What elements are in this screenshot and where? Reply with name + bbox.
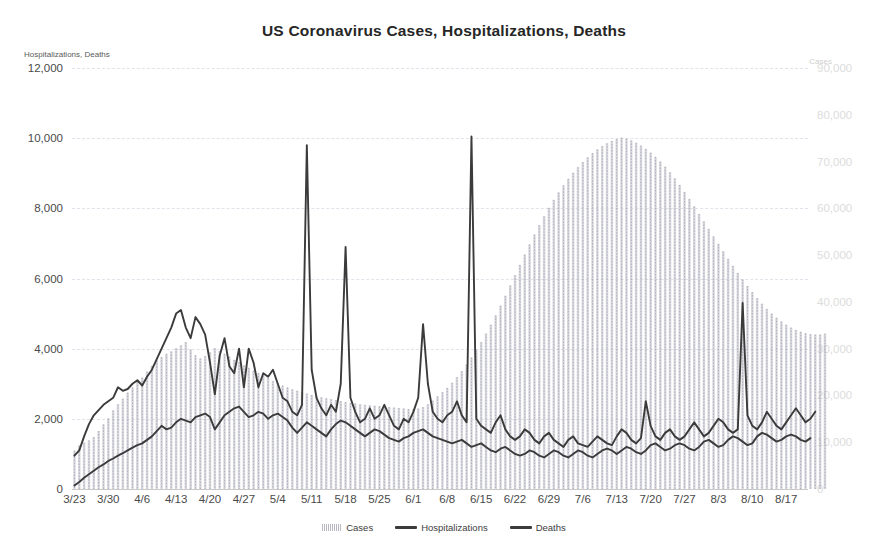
x-axis-tick-label: 4/20 (199, 493, 221, 505)
x-axis-tick-label: 8/10 (741, 493, 763, 505)
right-axis-tick-label: 30,000 (817, 343, 852, 355)
left-axis-tick-label: 0 (57, 483, 63, 495)
x-axis-tick-label: 5/25 (368, 493, 390, 505)
x-axis-tick-label: 5/4 (270, 493, 286, 505)
chart-page: US Coronavirus Cases, Hospitalizations, … (0, 0, 888, 560)
x-axis-tick-label: 6/15 (470, 493, 492, 505)
right-axis-tick-label: 90,000 (817, 62, 852, 74)
x-axis-tick-label: 3/30 (97, 493, 119, 505)
left-axis-title: Hospitalizations, Deaths (24, 50, 110, 59)
bar (819, 335, 822, 489)
right-axis-tick-label: 50,000 (817, 249, 852, 261)
legend-item[interactable]: Deaths (510, 523, 566, 533)
x-axis-tick-label: 5/18 (334, 493, 356, 505)
line-hospitalizations (74, 136, 815, 455)
x-axis-tick-label: 6/29 (538, 493, 560, 505)
bar (824, 334, 827, 489)
x-axis-tick-label: 8/17 (775, 493, 797, 505)
legend-swatch-line-icon (395, 526, 417, 529)
x-axis-tick-label: 4/6 (134, 493, 150, 505)
bar (809, 334, 812, 489)
right-axis-tick-label: 80,000 (817, 109, 852, 121)
legend-label: Cases (346, 523, 373, 533)
x-axis-tick-label: 4/13 (165, 493, 187, 505)
plot-area: 02,0004,0006,0008,00010,00012,000 010,00… (72, 68, 808, 489)
x-axis-tick-label: 6/22 (504, 493, 526, 505)
x-axis-tick-label: 7/27 (673, 493, 695, 505)
x-axis-tick-label: 7/6 (575, 493, 591, 505)
legend-label: Hospitalizations (421, 523, 488, 533)
x-axis-tick-label: 6/1 (405, 493, 421, 505)
left-axis-tick-label: 12,000 (28, 62, 63, 74)
x-axis-tick-label: 8/3 (710, 493, 726, 505)
right-axis-tick-label: 20,000 (817, 389, 852, 401)
chart-title: US Coronavirus Cases, Hospitalizations, … (0, 22, 888, 40)
x-axis-tick-label: 7/13 (606, 493, 628, 505)
line-deaths (74, 407, 810, 486)
right-axis-tick-label: 70,000 (817, 156, 852, 168)
x-axis-tick-label: 7/20 (639, 493, 661, 505)
legend-swatch-line-icon (510, 526, 532, 529)
left-axis-tick-label: 4,000 (34, 343, 63, 355)
left-axis-tick-label: 6,000 (34, 273, 63, 285)
left-axis-tick-label: 2,000 (34, 413, 63, 425)
legend-label: Deaths (536, 523, 566, 533)
left-axis-tick-label: 10,000 (28, 132, 63, 144)
x-axis-tick-label: 5/11 (301, 493, 323, 505)
legend-swatch-bars-icon (322, 524, 342, 531)
legend-item[interactable]: Hospitalizations (395, 523, 488, 533)
legend-item[interactable]: Cases (322, 523, 373, 533)
right-axis-tick-label: 40,000 (817, 296, 852, 308)
left-axis-tick-label: 8,000 (34, 202, 63, 214)
chart-legend: CasesHospitalizationsDeaths (0, 523, 888, 533)
x-axis-tick-label: 4/27 (233, 493, 255, 505)
x-axis-tick-label: 6/8 (439, 493, 455, 505)
right-axis-tick-label: 60,000 (817, 202, 852, 214)
lines-layer (72, 68, 808, 489)
axis-baseline (72, 489, 808, 490)
right-axis-tick-label: 10,000 (817, 436, 852, 448)
x-axis-tick-label: 3/23 (63, 493, 85, 505)
